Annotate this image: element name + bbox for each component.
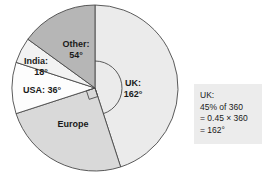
uk-calculation-callout: UK:45% of 360= 0.45 × 360= 162° [194,84,262,144]
pie-label-usa: USA: 36° [23,85,62,95]
pie-label-europe: Europe [57,119,88,129]
pie-value-other: 54° [69,50,83,60]
callout-line-2: 45% of 360 [200,102,262,114]
callout-line-4: = 162° [200,125,262,137]
pie-value-uk: 162° [124,89,143,99]
callout-line-1: UK: [200,90,262,102]
pie-chart-figure: UK:162°EuropeUSA: 36°India:18°Other:54° … [0,0,266,176]
pie-value-india: 18° [34,67,48,77]
pie-label-india: India: [24,56,48,66]
callout-line-3: = 0.45 × 360 [200,113,262,125]
pie-label-other: Other: [63,39,90,49]
pie-label-uk: UK: [125,78,141,88]
